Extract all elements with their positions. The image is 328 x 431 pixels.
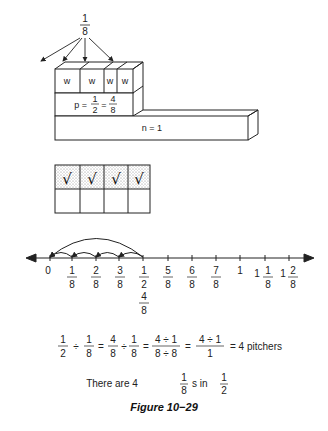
svg-text:2: 2	[60, 348, 66, 359]
svg-text:p =: p =	[74, 100, 87, 110]
svg-text:1: 1	[254, 268, 260, 279]
svg-text:8: 8	[82, 26, 88, 37]
svg-text:8: 8	[290, 279, 296, 290]
number-line-labels: 0 1 8 2 8 3 8 1 2 4 8 5 8 6 8 7 8 1 1 1 …	[45, 265, 298, 316]
svg-text:w: w	[63, 76, 71, 86]
svg-text:8: 8	[141, 305, 147, 316]
statement: There are 4 1 8 s in 1 2	[86, 372, 228, 396]
svg-text:w: w	[106, 76, 114, 86]
svg-text:8: 8	[117, 279, 123, 290]
svg-text:=: =	[185, 341, 191, 352]
svg-text:4 ÷ 1: 4 ÷ 1	[155, 334, 178, 345]
svg-text:8: 8	[265, 279, 271, 290]
svg-text:2: 2	[141, 279, 147, 290]
svg-text:8: 8	[181, 385, 187, 396]
svg-text:2: 2	[221, 385, 227, 396]
figure-canvas: 1 8 w w w w p = 1	[0, 0, 328, 431]
svg-text:=: =	[101, 100, 106, 110]
svg-text:0: 0	[45, 265, 51, 276]
svg-text:8: 8	[189, 279, 195, 290]
figure-caption: Figure 10−29	[130, 401, 198, 413]
svg-text:w: w	[121, 76, 129, 86]
svg-text:8: 8	[213, 279, 219, 290]
check-icon: √	[134, 170, 144, 188]
svg-text:4: 4	[141, 291, 147, 302]
number-line	[26, 239, 314, 263]
n-label: n = 1	[142, 123, 162, 133]
svg-text:1: 1	[69, 265, 75, 276]
svg-text:1: 1	[221, 372, 227, 383]
check-grid: √ √ √ √	[55, 165, 150, 213]
svg-text:1: 1	[141, 265, 147, 276]
svg-text:= 4 pitchers: = 4 pitchers	[230, 341, 282, 352]
svg-text:1: 1	[131, 334, 137, 345]
pointer-arrows	[41, 38, 113, 61]
svg-text:2: 2	[92, 105, 97, 115]
svg-text:7: 7	[213, 265, 219, 276]
svg-text:There are 4: There are 4	[86, 378, 138, 389]
svg-text:2: 2	[290, 265, 296, 276]
svg-text:4 ÷ 1: 4 ÷ 1	[199, 334, 222, 345]
svg-text:8: 8	[69, 279, 75, 290]
svg-text:8: 8	[93, 279, 99, 290]
svg-text:1: 1	[60, 334, 66, 345]
svg-text:8: 8	[110, 348, 116, 359]
svg-text:8: 8	[131, 348, 137, 359]
svg-text:5: 5	[165, 265, 171, 276]
svg-text:8: 8	[110, 105, 115, 115]
svg-text:w: w	[88, 76, 96, 86]
check-icon: √	[87, 170, 97, 188]
svg-text:1: 1	[265, 265, 271, 276]
top-fraction: 1 8	[80, 13, 90, 37]
check-icon: √	[62, 170, 72, 188]
svg-text:8: 8	[165, 279, 171, 290]
svg-text:2: 2	[93, 265, 99, 276]
svg-text:1: 1	[237, 265, 243, 276]
svg-text:6: 6	[189, 265, 195, 276]
svg-text:8 ÷ 8: 8 ÷ 8	[155, 348, 178, 359]
svg-text:1: 1	[92, 94, 97, 104]
svg-text:1: 1	[181, 372, 187, 383]
svg-text:1: 1	[280, 268, 286, 279]
svg-text:1: 1	[82, 13, 88, 24]
svg-text:=: =	[143, 341, 149, 352]
svg-text:s in: s in	[192, 378, 208, 389]
check-icon: √	[111, 170, 121, 188]
svg-text:4: 4	[110, 334, 116, 345]
svg-text:3: 3	[117, 265, 123, 276]
svg-text:4: 4	[110, 94, 115, 104]
division-equation: 1 2 ÷ 1 8 = 4 8 ÷ 1 8 = 4 ÷ 1 8 ÷ 8 = 4 …	[58, 334, 282, 359]
svg-text:=: =	[98, 341, 104, 352]
svg-text:÷: ÷	[73, 341, 79, 352]
svg-text:8: 8	[86, 348, 92, 359]
svg-text:1: 1	[86, 334, 92, 345]
svg-text:÷: ÷	[121, 341, 127, 352]
svg-text:1: 1	[207, 348, 213, 359]
